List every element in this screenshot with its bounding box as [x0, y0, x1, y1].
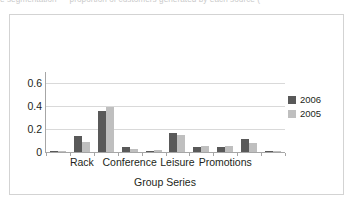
legend-item-2006: 2006	[288, 94, 346, 106]
bar-2006	[50, 151, 58, 152]
bar-group	[213, 72, 237, 152]
bar-2005	[249, 143, 257, 152]
y-tick-label: 0.4	[14, 101, 42, 112]
chart-legend: 2006 2005	[288, 94, 346, 122]
bar-2006	[74, 136, 82, 152]
bar-group	[46, 72, 70, 152]
bar-group	[166, 72, 190, 152]
bar-2005	[130, 149, 138, 152]
x-category-label: Conference	[102, 156, 156, 168]
chart-frame: 00.20.40.6 RackConferenceLeisurePromotio…	[9, 14, 344, 195]
bar-2005	[106, 107, 114, 152]
bar-2006	[265, 151, 273, 152]
plot-area	[45, 72, 285, 153]
bar-group	[261, 72, 285, 152]
x-category-label: Leisure	[160, 156, 194, 168]
bar-2006	[146, 151, 154, 152]
x-axis-category-labels: RackConferenceLeisurePromotions	[45, 156, 285, 170]
bar-group	[142, 72, 166, 152]
x-category-label: Promotions	[199, 156, 252, 168]
bar-2006	[98, 111, 106, 152]
bars-layer	[46, 72, 285, 152]
y-tick-label: 0.6	[14, 78, 42, 89]
bar-2005	[273, 151, 281, 152]
bar-2005	[82, 142, 90, 152]
bar-group	[118, 72, 142, 152]
y-tick-label: 0	[14, 147, 42, 158]
bar-2006	[122, 147, 130, 152]
bar-2006	[193, 147, 201, 152]
bar-group	[70, 72, 94, 152]
bar-2005	[225, 146, 233, 152]
legend-label-2006: 2006	[300, 95, 321, 105]
bar-group	[94, 72, 118, 152]
y-tick-label: 0.2	[14, 124, 42, 135]
caption-text: e segmentation — proportion of customers…	[0, 0, 353, 4]
x-tick	[285, 153, 286, 156]
bar-group	[237, 72, 261, 152]
cut-off-caption: e segmentation — proportion of customers…	[0, 0, 353, 11]
bar-2006	[217, 147, 225, 152]
legend-item-2005: 2005	[288, 108, 346, 120]
bar-2005	[58, 151, 66, 152]
bar-2005	[154, 150, 162, 152]
bar-2006	[169, 133, 177, 152]
legend-label-2005: 2005	[300, 109, 321, 119]
bar-2006	[241, 139, 249, 152]
bar-2005	[177, 135, 185, 152]
bar-2005	[201, 146, 209, 152]
x-category-label: Rack	[70, 156, 94, 168]
x-axis-title: Group Series	[45, 176, 285, 188]
y-axis-tick-labels: 00.20.40.6	[10, 72, 42, 153]
bar-group	[189, 72, 213, 152]
legend-swatch-2006	[288, 96, 296, 104]
legend-swatch-2005	[288, 110, 296, 118]
